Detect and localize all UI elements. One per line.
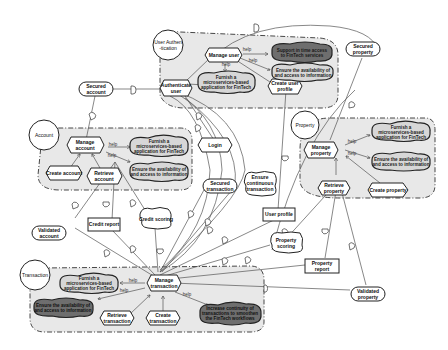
dependum-validated-account[interactable]: Validated account	[32, 226, 66, 240]
actor-transaction[interactable]: Transaction	[20, 260, 50, 290]
svg-text:and access to information: and access to information	[35, 308, 92, 313]
svg-text:Account: Account	[35, 132, 54, 138]
svg-text:help: help	[222, 62, 231, 67]
task-manage-transaction[interactable]: Manage transaction	[147, 275, 181, 291]
svg-text:transaction: transaction	[150, 318, 177, 324]
softgoal-furnish-microservices-transaction[interactable]: Furnish a microservices-based applicatio…	[60, 273, 118, 293]
dependum-secured-transaction[interactable]: Secured transaction	[203, 179, 237, 193]
svg-text:User profile: User profile	[265, 211, 293, 217]
svg-text:-tication: -tication	[159, 45, 177, 51]
svg-text:account: account	[39, 233, 59, 239]
softgoal-ensure-availability-user[interactable]: Ensure the availability of and access to…	[272, 63, 333, 82]
dependum-secured-property[interactable]: Secured property	[346, 42, 380, 56]
svg-text:transaction: transaction	[151, 283, 178, 289]
softgoal-ensure-availability-account[interactable]: Ensure the availability of and access to…	[130, 162, 188, 182]
task-authenticate-user[interactable]: Authenticate user	[160, 80, 192, 96]
task-retrieve-account[interactable]: Retrieve account	[87, 168, 122, 184]
softgoal-property-scoring[interactable]: Property scoring	[271, 232, 303, 253]
svg-text:help: help	[183, 292, 192, 297]
svg-text:account: account	[94, 176, 114, 182]
svg-text:Create property: Create property	[369, 187, 406, 193]
task-manage-property[interactable]: Manage property	[304, 142, 338, 158]
softgoal-ensure-availability-transaction[interactable]: Ensure the availability of and access to…	[34, 298, 93, 318]
svg-text:and access to information: and access to information	[275, 73, 332, 78]
svg-text:Manage user: Manage user	[209, 52, 240, 58]
svg-text:help: help	[348, 151, 357, 156]
svg-text:profile: profile	[277, 86, 292, 92]
softgoal-support-in-time-access[interactable]: Support in time access to FinTech servic…	[272, 42, 332, 63]
actor-account[interactable]: Account	[29, 120, 59, 150]
svg-text:property: property	[324, 188, 345, 194]
svg-text:application for FinTech: application for FinTech	[376, 135, 426, 140]
resource-user-profile[interactable]: User profile	[263, 208, 295, 221]
actor-user-authentication[interactable]: User Authen -tication	[153, 30, 183, 60]
resource-credit-report[interactable]: Credit report	[88, 218, 120, 231]
task-create-account[interactable]: Create account	[46, 166, 82, 180]
svg-text:help: help	[108, 153, 117, 158]
softgoal-furnish-microservices-account[interactable]: Furnish a microservices-based applicatio…	[130, 135, 188, 156]
svg-text:help: help	[120, 288, 129, 293]
softgoal-ensure-continuous-transaction[interactable]: Ensure continuous transaction	[244, 172, 276, 197]
svg-text:Create account: Create account	[46, 170, 82, 176]
task-retrieve-property[interactable]: Retrieve property	[318, 181, 350, 195]
svg-text:Transaction: Transaction	[22, 272, 48, 278]
softgoal-furnish-microservices-user[interactable]: Furnish a microservices-based applicatio…	[198, 71, 255, 94]
actor-property[interactable]: Property	[291, 111, 319, 139]
svg-text:transaction: transaction	[207, 186, 234, 192]
svg-text:and access to information: and access to information	[131, 172, 188, 177]
svg-text:help: help	[129, 278, 138, 283]
svg-text:help: help	[109, 142, 118, 147]
svg-text:to FinTech services: to FinTech services	[281, 53, 324, 58]
svg-text:application for FinTech: application for FinTech	[134, 149, 184, 154]
softgoal-furnish-microservices-property[interactable]: Furnish a microservices-based applicatio…	[372, 121, 430, 141]
svg-text:help: help	[243, 47, 252, 52]
svg-text:application for FinTech: application for FinTech	[201, 85, 251, 90]
svg-text:transaction: transaction	[104, 318, 131, 324]
softgoal-ensure-availability-property[interactable]: Ensure the availability of and access to…	[372, 152, 430, 171]
softgoal-credit-scoring[interactable]: Credit scoring	[139, 208, 173, 230]
svg-text:account: account	[75, 145, 95, 151]
task-manage-user[interactable]: Manage user	[205, 48, 242, 62]
task-manage-account[interactable]: Manage account	[67, 137, 104, 153]
svg-text:application for FinTech: application for FinTech	[64, 286, 114, 291]
svg-text:property: property	[358, 294, 379, 300]
task-create-property[interactable]: Create property	[368, 183, 408, 197]
goal-login[interactable]: Login	[198, 138, 232, 152]
svg-text:user: user	[171, 88, 182, 94]
svg-text:property: property	[311, 150, 332, 156]
svg-text:the FinTech workflows: the FinTech workflows	[205, 316, 255, 321]
task-create-transaction[interactable]: Create transaction	[146, 311, 180, 325]
softgoal-increase-continuity[interactable]: Increase continuity of transactions to s…	[200, 302, 261, 325]
resource-property-report[interactable]: Property report	[305, 259, 339, 273]
svg-text:account: account	[86, 89, 106, 95]
svg-text:Credit scoring: Credit scoring	[139, 216, 173, 222]
task-retrieve-transaction[interactable]: Retrieve transaction	[100, 311, 134, 325]
dependum-validated-property[interactable]: Validated property	[351, 287, 385, 301]
svg-text:scoring: scoring	[277, 243, 295, 249]
svg-text:and access to information: and access to information	[373, 162, 430, 167]
istar-diagram: help help help help help help help help …	[0, 0, 448, 350]
svg-text:property: property	[353, 49, 374, 55]
svg-text:help: help	[348, 139, 357, 144]
svg-text:Credit report: Credit report	[89, 221, 120, 227]
dependum-secured-account[interactable]: Secured account	[79, 82, 113, 96]
svg-text:Login: Login	[208, 142, 222, 148]
svg-text:transaction: transaction	[247, 186, 274, 192]
svg-text:Property: Property	[296, 122, 315, 128]
svg-text:report: report	[315, 266, 330, 272]
svg-text:help: help	[249, 58, 258, 63]
